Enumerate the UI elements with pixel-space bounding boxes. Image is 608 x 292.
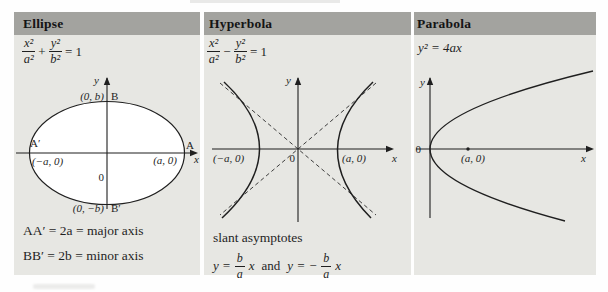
parabola-curve — [430, 71, 593, 221]
y-axis-label: y — [285, 74, 291, 86]
slant-asymptotes-caption: slant asymptotes — [213, 230, 341, 246]
equals-one: = 1 — [250, 44, 267, 60]
y-axis-arrow-icon — [427, 77, 433, 85]
cropped-text-artifact-top — [190, 0, 340, 3]
asymptote-eq2-x: x — [335, 258, 341, 274]
plus-operator: + — [38, 44, 45, 60]
asymptote-eq1-x: x — [249, 258, 255, 274]
hyperbola-notes: slant asymptotes y = b a x and y = − b a… — [213, 230, 341, 280]
hyperbola-column: Hyperbola x² a² − y² b² = 1 y x 0 — [204, 12, 411, 275]
and-conjunction: and — [262, 258, 281, 274]
vertex-b-prime: B′ — [111, 202, 121, 214]
ellipse-notes: AA′ = 2a = major axis BB′ = 2b = minor a… — [23, 218, 144, 268]
cropped-text-artifact-bottom — [33, 284, 95, 289]
bottom-coordinate: (0, −b) — [73, 202, 105, 215]
top-coordinate: (0, b) — [80, 90, 104, 103]
y-axis-label: y — [419, 76, 425, 88]
fraction-b-a: b a — [235, 252, 245, 280]
minus-operator: − — [223, 44, 230, 60]
vertex-b: B — [111, 90, 118, 102]
fraction-b-a-negative: b a — [321, 252, 331, 280]
left-coordinate: (−a, 0) — [32, 155, 64, 168]
origin-label: 0 — [99, 171, 105, 183]
x-axis-arrow-icon — [586, 146, 594, 152]
asymptote-eq1-lhs: y = — [213, 258, 231, 274]
parabola-column: Parabola y² = 4ax y x 0 (a, 0) — [414, 12, 596, 275]
ellipse-graph: y x (0, b) B A′ (−a, 0) A (a, 0) 0 (0, −… — [14, 72, 200, 218]
parabola-header: Parabola — [414, 12, 596, 35]
fraction-y2-b2: y² b² — [49, 37, 62, 66]
vertex-a: A — [186, 139, 194, 151]
right-coordinate: (a, 0) — [342, 152, 366, 165]
origin-label: 0 — [416, 143, 422, 155]
textbook-page: Ellipse x² a² + y² b² = 1 y x (0, b) B A… — [0, 0, 608, 292]
parabola-graph: y x 0 (a, 0) — [414, 62, 596, 222]
y-axis-arrow-icon — [104, 77, 110, 85]
focus-point — [466, 147, 469, 150]
ellipse-column: Ellipse x² a² + y² b² = 1 y x (0, b) B A… — [14, 12, 200, 275]
x-axis-label: x — [580, 152, 586, 164]
x-axis-label: x — [193, 153, 199, 165]
hyperbola-left-branch — [222, 82, 260, 218]
equals-one: = 1 — [65, 44, 82, 60]
vertex-a-prime: A′ — [30, 137, 40, 149]
right-coordinate: (a, 0) — [153, 154, 177, 167]
y-axis-arrow-icon — [295, 77, 301, 85]
focus-coordinate: (a, 0) — [461, 152, 485, 165]
fraction-x2-a2: x² a² — [22, 37, 35, 66]
ellipse-equation: x² a² + y² b² = 1 — [22, 37, 82, 66]
parabola-equation: y² = 4ax — [418, 40, 462, 56]
major-axis-note: AA′ = 2a = major axis — [23, 218, 144, 243]
x-axis-label: x — [391, 152, 397, 164]
parabola-equation-text: y² = 4ax — [418, 40, 462, 56]
origin-label: 0 — [290, 152, 296, 164]
y-axis-label: y — [93, 74, 99, 86]
left-coordinate: (−a, 0) — [213, 152, 245, 165]
asymptote-eq2-lhs: y = − — [287, 258, 317, 274]
hyperbola-graph: y x 0 (−a, 0) (a, 0) — [204, 62, 411, 222]
ellipse-header: Ellipse — [14, 12, 200, 35]
asymptote-equations: y = b a x and y = − b a x — [213, 252, 341, 280]
minor-axis-note: BB′ = 2b = minor axis — [23, 243, 144, 268]
hyperbola-header: Hyperbola — [204, 12, 411, 35]
